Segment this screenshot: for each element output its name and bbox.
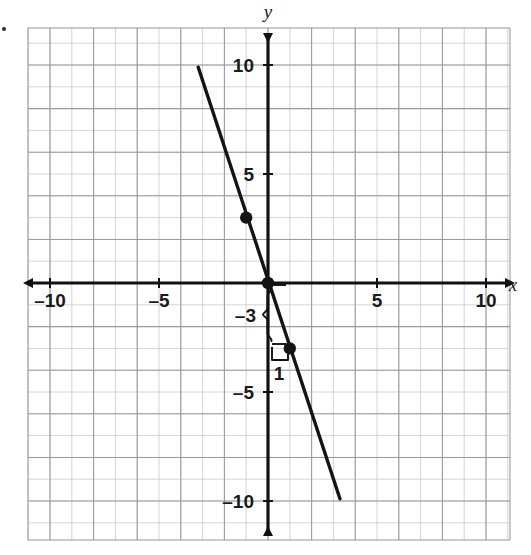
y-tick-label: 10: [233, 55, 254, 76]
y-axis-label: y: [262, 1, 273, 22]
graph-canvas: –10–5510105–5–10 x y –3 1: [0, 0, 531, 555]
y-tick-label: –10: [222, 491, 254, 512]
x-tick-label: –5: [148, 290, 170, 311]
y-tick-label: 5: [243, 164, 254, 185]
data-point: [262, 277, 274, 289]
x-tick-label: –10: [34, 290, 66, 311]
y-tick-label: –5: [233, 382, 255, 403]
data-point: [240, 211, 252, 223]
coordinate-plane: –10–5510105–5–10 x y –3 1: [0, 0, 531, 555]
rise-brace-label: –3: [235, 305, 256, 326]
x-tick-label: 10: [475, 290, 496, 311]
x-axis-label: x: [508, 274, 518, 295]
run-bracket-label: 1: [274, 363, 285, 384]
x-tick-label: 5: [372, 290, 383, 311]
data-point: [284, 342, 296, 354]
